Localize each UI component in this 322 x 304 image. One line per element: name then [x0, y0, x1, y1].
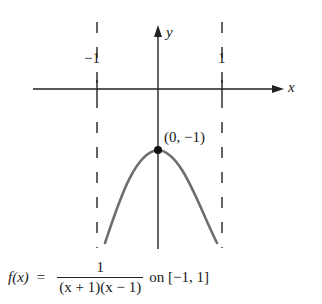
x-axis-arrow-icon — [272, 85, 284, 93]
formula-suffix: on [−1, 1] — [149, 269, 209, 286]
y-axis-label: y — [166, 25, 173, 40]
asymptote-label-neg1: −1 — [84, 51, 100, 66]
vertex-point — [154, 146, 162, 154]
x-axis-label: x — [288, 80, 295, 95]
formula-fraction: 1 (x + 1)(x − 1) — [57, 260, 143, 295]
function-formula: f(x) = 1 (x + 1)(x − 1) on [−1, 1] — [8, 257, 209, 297]
asymptote-label-pos1: 1 — [218, 51, 226, 66]
function-curve — [105, 150, 217, 243]
formula-numerator: 1 — [95, 260, 107, 277]
y-axis-arrow-icon — [154, 25, 162, 37]
formula-denominator: (x + 1)(x − 1) — [57, 277, 143, 295]
formula-equals: = — [37, 269, 45, 286]
point-label: (0, −1) — [164, 130, 205, 145]
formula-lhs: f(x) — [8, 269, 29, 286]
